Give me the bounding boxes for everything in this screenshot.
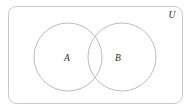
venn-diagram-container: A B U: [0, 0, 192, 110]
set-b-circle: [88, 23, 156, 91]
set-a-label: A: [63, 53, 70, 63]
universal-set-label: U: [169, 10, 177, 20]
venn-diagram-canvas: A B U: [0, 0, 192, 110]
set-b-label: B: [115, 53, 121, 63]
